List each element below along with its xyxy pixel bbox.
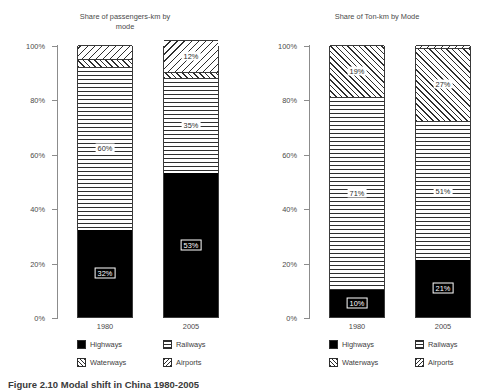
legend-item-railways[interactable]: Railways [163,340,206,349]
back-diagonal-hatch-swatch-icon [329,358,338,367]
y-axis-tick-label: 80% [30,96,45,105]
y-axis-tick: 80% [304,100,309,101]
y-axis-tick: 100% [304,46,309,47]
plot-area-passengers-km: 0%20%40%60%80%100%32%60%198053%35%12%200… [57,46,237,318]
bar-segment-waterways[interactable] [164,72,218,77]
segment-value-label: 35% [182,121,201,130]
y-axis-tick: 40% [52,209,57,210]
segment-divider [416,45,470,46]
segment-divider [78,59,132,60]
legend-item-label: Railways [428,340,458,349]
y-axis-tick-label: 0% [286,314,297,323]
segment-value-label: 12% [182,51,201,60]
y-axis-tick-label: 80% [282,96,297,105]
bar-segment-railways[interactable]: 51% [416,121,470,260]
segment-divider [330,45,384,46]
stacked-bar[interactable]: 21%51%27% [415,46,471,318]
legend-item-label: Airports [176,358,201,367]
bar-segment-railways[interactable]: 60% [78,67,132,230]
chart-title-ton-km: Share of Ton-km by Mode [252,12,500,22]
chart-title-passengers-km: Share of passengers-km by mode [0,12,250,32]
segment-value-label: 19% [348,66,367,75]
chart-panel-ton-km: Share of Ton-km by Mode 0%20%40%60%80%10… [252,0,500,378]
stacked-bar[interactable]: 32%60% [77,46,133,318]
forward-diagonal-hatch-swatch-icon [415,358,424,367]
segment-divider [164,72,218,73]
segment-divider [164,78,218,79]
x-axis-tick-label: 1980 [329,322,385,331]
segment-divider [164,40,218,41]
bar-segment-highways[interactable]: 32% [78,230,132,317]
y-axis-tick: 100% [52,46,57,47]
y-axis-tick-label: 100% [26,42,45,51]
segment-value-label: 53% [181,239,202,250]
legend-item-railways[interactable]: Railways [415,340,458,349]
chart-legend-passengers-km: HighwaysRailwaysWaterwaysAirports [57,338,237,374]
plot-area-ton-km: 0%20%40%60%80%100%10%71%19%198021%51%27%… [309,46,489,318]
y-axis-line [57,45,58,319]
y-axis-tick-label: 20% [282,259,297,268]
y-axis-tick: 60% [304,155,309,156]
legend-item-waterways[interactable]: Waterways [77,358,126,367]
y-axis-tick-label: 60% [30,150,45,159]
y-axis-tick: 80% [52,100,57,101]
legend-item-airports[interactable]: Airports [415,358,453,367]
chart-legend-ton-km: HighwaysRailwaysWaterwaysAirports [309,338,489,374]
legend-item-label: Airports [428,358,453,367]
y-axis-tick: 60% [52,155,57,156]
horizontal-hatch-swatch-icon [163,340,172,349]
y-axis-tick-label: 60% [282,150,297,159]
legend-item-airports[interactable]: Airports [163,358,201,367]
y-axis-tick: 0% [304,318,309,319]
legend-item-label: Railways [176,340,206,349]
bar-segment-airports[interactable] [416,45,470,48]
forward-diagonal-hatch-swatch-icon [163,358,172,367]
bar-segment-highways[interactable]: 21% [416,260,470,317]
segment-value-label: 51% [434,186,453,195]
bar-segment-railways[interactable]: 71% [330,97,384,290]
legend-item-highways[interactable]: Highways [329,340,374,349]
chart-panel-passengers-km: Share of passengers-km by mode 0%20%40%6… [0,0,250,378]
segment-value-label: 10% [347,298,368,309]
y-axis-tick-label: 20% [30,259,45,268]
legend-item-highways[interactable]: Highways [77,340,122,349]
solid-swatch-icon [77,340,86,349]
y-axis-tick-label: 0% [34,314,45,323]
segment-divider [416,48,470,49]
segment-value-label: 71% [348,189,367,198]
bar-segment-waterways[interactable]: 27% [416,48,470,121]
y-axis-tick: 0% [52,318,57,319]
horizontal-hatch-swatch-icon [415,340,424,349]
bar-segment-waterways[interactable] [78,59,132,67]
segment-value-label: 32% [95,268,116,279]
segment-value-label: 21% [433,283,454,294]
segment-divider [330,97,384,98]
stacked-bar[interactable]: 10%71%19% [329,46,385,318]
y-axis-tick-label: 40% [282,205,297,214]
legend-item-waterways[interactable]: Waterways [329,358,378,367]
y-axis-line [309,45,310,319]
segment-divider [78,45,132,46]
back-diagonal-hatch-swatch-icon [77,358,86,367]
bar-segment-railways[interactable]: 35% [164,78,218,173]
bar-segment-highways[interactable]: 53% [164,173,218,317]
bar-segment-airports[interactable]: 12% [164,40,218,73]
stacked-bar[interactable]: 53%35%12% [163,46,219,318]
segment-value-label: 60% [96,144,115,153]
y-axis-tick: 40% [304,209,309,210]
x-axis-tick-label: 1980 [77,322,133,331]
bar-segment-airports[interactable] [78,45,132,59]
x-axis-tick-label: 2005 [415,322,471,331]
x-axis-tick-label: 2005 [163,322,219,331]
legend-item-label: Waterways [342,358,378,367]
y-axis-tick: 20% [304,264,309,265]
segment-value-label: 27% [434,80,453,89]
legend-item-label: Highways [90,340,122,349]
legend-item-label: Waterways [90,358,126,367]
y-axis-tick-label: 40% [30,205,45,214]
bar-segment-highways[interactable]: 10% [330,290,384,317]
figure-caption: Figure 2.10 Modal shift in China 1980-20… [8,379,199,390]
bar-segment-waterways[interactable]: 19% [330,45,384,97]
y-axis-tick-label: 100% [278,42,297,51]
